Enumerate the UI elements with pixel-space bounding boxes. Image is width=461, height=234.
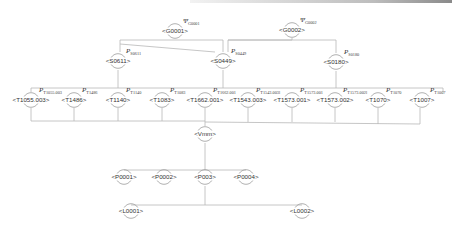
node-label: <Vmm> <box>194 130 216 137</box>
node-label: <P0001> <box>111 173 137 180</box>
node-symbol: PT1573.001 <box>299 86 323 95</box>
node-label: <T1486> <box>62 96 87 103</box>
node-t1070[interactable]: <T1070>PT1070 <box>366 86 402 107</box>
node-t1055.003[interactable]: <T1055.003>PT1055.003 <box>13 86 62 107</box>
node-circle-icon <box>285 104 299 108</box>
node-symbol: PT1070 <box>385 86 402 95</box>
node-symbol: ΨG0002 <box>300 16 317 25</box>
node-circle-icon <box>124 215 138 219</box>
node-circle-icon <box>241 104 255 108</box>
node-symbol: PT1055.003 <box>38 86 62 95</box>
node-circle-icon <box>295 215 309 219</box>
node-g0002[interactable]: <G0002>ΨG0002 <box>279 16 317 37</box>
node-symbol: PT1007 <box>429 86 446 95</box>
node-circle-icon <box>285 34 299 38</box>
node-symbol: ΨG0001 <box>183 17 200 26</box>
node-circle-icon <box>67 104 81 108</box>
node-circle-icon <box>117 181 131 185</box>
node-label: <G0001> <box>162 27 188 34</box>
node-p0004[interactable]: <P0004> <box>233 170 259 185</box>
node-label: <S0180> <box>323 58 349 65</box>
node-circle-icon <box>155 104 169 108</box>
node-label: <T1083> <box>150 96 175 103</box>
node-label: <T1070> <box>366 96 391 103</box>
node-p003[interactable]: <P003> <box>194 170 216 185</box>
node-t1083[interactable]: <T1083>PT1083 <box>150 86 186 107</box>
node-circle-icon <box>329 66 343 70</box>
node-t1486[interactable]: <T1486>PT1486 <box>62 86 99 107</box>
node-symbol: PT1543.003l <box>255 86 281 95</box>
node-circle-icon <box>198 181 212 185</box>
node-circle-icon <box>111 65 125 69</box>
node-label: <T1573.002> <box>317 96 354 103</box>
node-label: <T1007> <box>410 96 435 103</box>
node-t1140[interactable]: <T1140>PT1140 <box>106 86 142 107</box>
node-g0001[interactable]: <G0001>ΨG0001 <box>162 17 200 38</box>
node-label: <T1543.003> <box>230 96 267 103</box>
node-circle-icon <box>371 104 385 108</box>
node-t1007[interactable]: <T1007>PT1007 <box>410 86 447 107</box>
node-s0611[interactable]: <S0611>PS0611 <box>106 47 141 68</box>
node-symbol: PT1486 <box>81 86 98 95</box>
node-label: <T1662.001> <box>187 96 224 103</box>
node-p0001[interactable]: <P0001> <box>111 170 137 185</box>
node-symbol: PT1573.002l <box>342 86 368 95</box>
node-l0001[interactable]: <L0001> <box>119 204 144 219</box>
node-label: <L0001> <box>119 207 144 214</box>
node-l0002[interactable]: <L0002> <box>290 204 315 219</box>
edge-line <box>228 38 292 40</box>
node-label: <T1573.001> <box>274 96 311 103</box>
node-symbol: PT1083 <box>169 86 186 95</box>
node-circle-icon <box>24 104 38 108</box>
node-label: <L0002> <box>290 207 315 214</box>
node-circle-icon <box>415 104 429 108</box>
node-circle-icon <box>239 181 253 185</box>
node-symbol: PS0180 <box>343 48 359 57</box>
node-circle-icon <box>157 181 171 185</box>
node-label: <P0004> <box>233 173 259 180</box>
node-symbol: PS0611 <box>125 47 141 56</box>
node-p0002[interactable]: <P0002> <box>151 170 177 185</box>
node-circle-icon <box>198 138 212 142</box>
tree-diagram: <G0001>ΨG0001<G0002>ΨG0002<S0611>PS0611<… <box>0 0 461 234</box>
node-label: <T1055.003> <box>13 96 50 103</box>
node-label: <P0002> <box>151 173 177 180</box>
node-label: <S0449> <box>210 57 236 64</box>
node-symbol: PS0449 <box>230 47 246 56</box>
node-s0180[interactable]: <S0180>PS0180 <box>323 48 359 69</box>
nodes-layer: <G0001>ΨG0001<G0002>ΨG0002<S0611>PS0611<… <box>13 16 447 218</box>
node-circle-icon <box>216 65 230 69</box>
node-vmm[interactable]: <Vmm> <box>194 127 216 142</box>
node-label: <T1140> <box>106 96 131 103</box>
node-circle-icon <box>198 104 212 108</box>
edge-line <box>205 122 420 124</box>
node-circle-icon <box>168 35 182 39</box>
node-label: <S0611> <box>106 57 131 64</box>
node-circle-icon <box>328 104 342 108</box>
node-symbol: PT1140 <box>125 86 141 95</box>
node-symbol: PT1662.001 <box>212 86 236 95</box>
node-circle-icon <box>111 104 125 108</box>
node-label: <G0002> <box>279 26 305 33</box>
node-label: <P003> <box>194 173 216 180</box>
node-t1573.002[interactable]: <T1573.002>PT1573.002l <box>317 86 368 107</box>
